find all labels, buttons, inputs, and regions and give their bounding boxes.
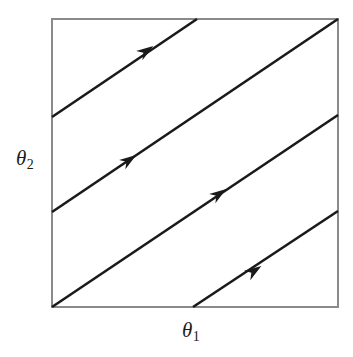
- y-axis-label: θ2: [16, 148, 34, 172]
- x-axis-label: θ1: [182, 320, 200, 344]
- y-axis-label-symbol: θ: [16, 146, 26, 170]
- y-axis-label-subscript: 2: [26, 157, 34, 172]
- torus-flow-plot: [0, 0, 353, 357]
- figure-container: θ2 θ1: [0, 0, 353, 357]
- x-axis-label-symbol: θ: [182, 318, 192, 342]
- x-axis-label-subscript: 1: [192, 329, 200, 344]
- plot-frame: [52, 19, 338, 307]
